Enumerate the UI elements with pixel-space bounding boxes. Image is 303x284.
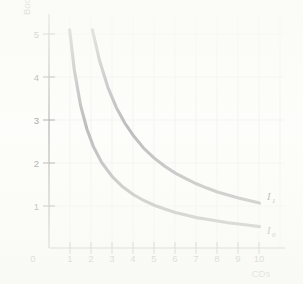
y-tick-label-3: 3 bbox=[34, 115, 39, 126]
y-tick-label-2: 2 bbox=[34, 158, 39, 169]
x-tick-label-8: 8 bbox=[214, 253, 219, 264]
curve-label-i0-sub: 0 bbox=[272, 231, 276, 239]
indifference-curve-i1 bbox=[92, 30, 259, 203]
curve-label-i0: I 0 bbox=[266, 225, 276, 239]
x-tick-label-5: 5 bbox=[151, 253, 156, 264]
y-tick-label-4: 4 bbox=[34, 72, 39, 83]
x-tick-label-7: 7 bbox=[193, 253, 198, 264]
curve-label-i1-sub: 1 bbox=[272, 197, 276, 205]
x-tick-label-10: 10 bbox=[254, 253, 265, 264]
x-tick-label-1: 1 bbox=[67, 253, 72, 264]
x-tick-label-3: 3 bbox=[109, 253, 114, 264]
x-tick-label-2: 2 bbox=[88, 253, 93, 264]
y-axis-title: Books bbox=[21, 0, 32, 15]
y-tick-label-5: 5 bbox=[34, 29, 39, 40]
x-tick-label-9: 9 bbox=[235, 253, 240, 264]
curve-label-i0-main: I bbox=[266, 225, 271, 236]
x-axis-title: CDs bbox=[252, 268, 271, 279]
x-tick-label-0: 0 bbox=[30, 253, 35, 264]
indifference-curve-plot: 5 4 3 2 1 0 1 2 3 4 5 6 7 8 9 10 Books C… bbox=[0, 0, 303, 284]
chart-figure: 5 4 3 2 1 0 1 2 3 4 5 6 7 8 9 10 Books C… bbox=[0, 0, 303, 284]
x-tick-label-6: 6 bbox=[172, 253, 177, 264]
x-tick-label-4: 4 bbox=[130, 253, 135, 264]
curve-label-i1: I 1 bbox=[266, 191, 276, 205]
curve-label-i1-main: I bbox=[266, 191, 271, 202]
y-tick-label-1: 1 bbox=[34, 201, 39, 212]
